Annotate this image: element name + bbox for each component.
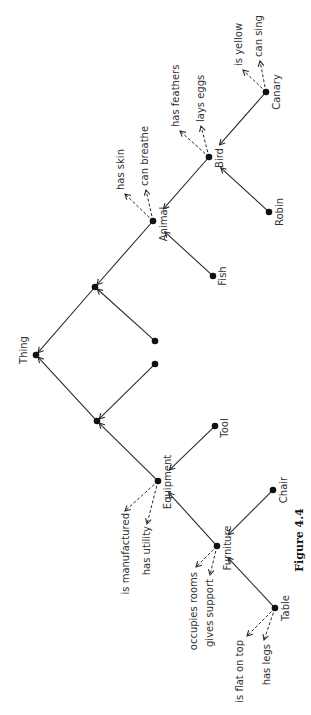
- property-edge-bird: [201, 126, 209, 157]
- arrowhead-icon: [263, 634, 268, 640]
- node-label-chair: Chair: [278, 476, 289, 503]
- node-label-thing: Thing: [18, 336, 29, 365]
- isa-edge-fish-to-animal: [165, 232, 212, 275]
- node-dot-chair: [270, 487, 277, 494]
- node-dot-junction-lower: [94, 418, 101, 425]
- node-dot-canary: [263, 89, 270, 96]
- property-label: is yellow: [233, 23, 244, 66]
- node-label-furniture: Furniture: [222, 526, 233, 571]
- isa-edge-equipment-to-junction-lower: [99, 423, 156, 479]
- property-edge-bird: [180, 131, 209, 157]
- property-label: has skin: [115, 149, 126, 190]
- node-dot-thing: [33, 352, 40, 359]
- isa-edge-animal-to-junction-upper: [97, 223, 152, 285]
- node-dot-unnamed-1: [152, 338, 159, 345]
- node-label-robin: Robin: [274, 198, 285, 226]
- property-edge-equipment: [147, 481, 158, 524]
- nodes: [33, 89, 279, 612]
- node-dot-equipment: [155, 478, 162, 485]
- property-label: occupies rooms: [188, 572, 199, 650]
- property-edge-table: [247, 608, 275, 636]
- node-dot-table: [272, 605, 279, 612]
- isa-edge-unnamed-1-to-junction-upper: [97, 289, 153, 340]
- arrowhead-icon: [146, 518, 152, 524]
- node-label-table: Table: [280, 595, 291, 622]
- property-label: gives support: [204, 579, 215, 647]
- node-label-animal: Animal: [158, 207, 169, 242]
- property-label: has legs: [261, 644, 272, 685]
- figure-caption: Figure 4.4: [293, 508, 306, 572]
- node-dot-unnamed-2: [152, 361, 159, 368]
- property-label: can breathe: [139, 126, 150, 186]
- isa-edge-junction-upper-to-thing: [38, 289, 94, 353]
- node-dot-bird: [206, 154, 213, 161]
- isa-edge-bird-to-animal: [164, 159, 208, 209]
- node-dot-tool: [212, 423, 219, 430]
- node-label-equipment: Equipment: [162, 455, 173, 509]
- property-label: has feathers: [170, 65, 181, 127]
- property-edges: is yellowcan singhas featherslays eggsha…: [115, 15, 275, 703]
- property-edge-equipment: [125, 481, 158, 511]
- isa-edge-table-to-furniture: [228, 558, 274, 607]
- node-label-tool: Tool: [219, 418, 230, 438]
- arrowhead-icon: [208, 569, 214, 575]
- node-labels: CanaryBirdRobinAnimalFishThingToolEquipm…: [18, 74, 291, 622]
- property-label: can sing: [253, 15, 264, 57]
- node-dot-animal: [150, 218, 157, 225]
- property-edge-canary: [243, 70, 266, 92]
- property-label: lays eggs: [195, 75, 206, 122]
- isa-edge-furniture-to-equipment: [169, 493, 216, 545]
- isa-edge-tool-to-equipment: [170, 427, 214, 470]
- isa-edge-junction-lower-to-thing: [38, 357, 96, 419]
- figure-caption-group: Figure 4.4: [293, 508, 306, 572]
- isa-edge-unnamed-2-to-junction-lower: [99, 365, 153, 418]
- property-label: is manufactured: [120, 513, 131, 595]
- node-dot-robin: [266, 209, 273, 216]
- semantic-network-diagram: is yellowcan singhas featherslays eggsha…: [0, 0, 311, 715]
- property-edge-furniture: [196, 546, 217, 567]
- node-dot-junction-upper: [92, 284, 99, 291]
- isa-edges: [38, 94, 274, 607]
- node-dot-fish: [210, 273, 217, 280]
- node-label-fish: Fish: [217, 266, 228, 285]
- node-label-canary: Canary: [271, 74, 282, 110]
- property-label: has utility: [141, 526, 152, 575]
- isa-edge-chair-to-furniture: [228, 491, 271, 534]
- node-dot-furniture: [214, 543, 221, 550]
- isa-edge-canary-to-bird: [220, 94, 265, 145]
- isa-edge-robin-to-bird: [221, 168, 268, 211]
- property-edge-animal: [125, 194, 153, 221]
- property-label: is flat on top: [234, 640, 245, 703]
- node-label-bird: Bird: [214, 148, 225, 168]
